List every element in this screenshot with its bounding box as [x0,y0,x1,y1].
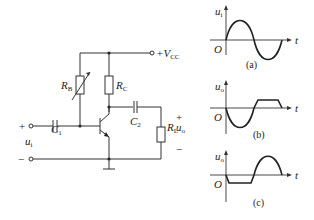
y-axis-label: uo [215,150,225,164]
caption-c: (c) [253,197,264,209]
vcc-terminal[interactable] [150,51,154,55]
ui-label: ui [25,135,33,149]
y-axis-label: ui [215,5,223,19]
output-plus-sign: + [176,111,182,123]
x-axis-label: t [295,102,299,114]
caption-b: (b) [253,129,265,141]
c1-label: C1 [51,123,62,137]
caption-a: (a) [246,59,257,71]
waveform-a: ui t O (a) [210,5,299,71]
input-minus-sign: − [18,153,24,165]
output-minus-sign: − [176,143,182,155]
origin-label: O [214,43,222,55]
rc-label: RC [115,79,128,93]
uo-label: uo [176,121,186,135]
vcc-label: +VCC [156,47,180,61]
axis-arrow-icon [224,80,292,110]
input-plus-terminal[interactable] [29,124,33,128]
x-axis-label: t [295,169,299,181]
emitter-arrow-icon [104,132,109,137]
waveform-b: uo t O (b) [210,80,299,141]
c2-capacitor[interactable] [134,101,137,113]
clipped-output-wave [226,100,282,128]
origin-label: O [214,111,222,123]
diagram-canvas: +VCC RB RC C2 RL uo [0,0,314,220]
input-minus-terminal[interactable] [29,157,33,161]
ground-symbol-icon [103,159,115,169]
clipped-output-wave [226,156,282,183]
amplifier-circuit: +VCC RB RC C2 RL uo [18,47,186,169]
c2-label: C2 [130,115,141,129]
transistor-collector [100,107,109,122]
rb-label: RB [60,79,73,93]
rc-resistor[interactable] [105,76,113,94]
transistor-emitter [100,130,109,159]
y-axis-label: uo [215,80,225,94]
origin-label: O [214,178,222,190]
waveform-c: uo t O (c) [210,150,299,209]
input-plus-sign: + [19,120,25,132]
rl-resistor[interactable] [157,127,165,142]
x-axis-label: t [295,34,299,46]
rl-wire-bottom [109,142,161,159]
